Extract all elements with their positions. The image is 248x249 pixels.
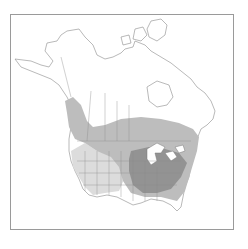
range-map — [11, 15, 233, 229]
map-frame — [10, 14, 234, 230]
arctic-islands — [121, 19, 167, 45]
